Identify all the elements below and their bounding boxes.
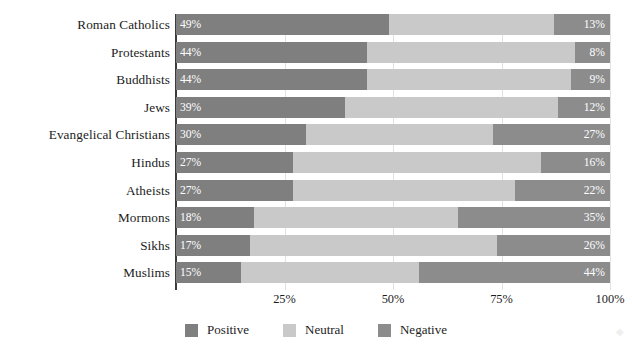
- bar-segment-neutral: [345, 97, 558, 118]
- segment-value-label: 26%: [584, 235, 605, 256]
- segment-value-label: 27%: [180, 180, 201, 201]
- bar-row: Mormons18%35%: [176, 207, 610, 228]
- legend-label: Positive: [207, 322, 249, 338]
- bar-segment-neutral: [254, 207, 458, 228]
- stacked-bar-chart: Roman Catholics49%13%Protestants44%8%Bud…: [0, 0, 632, 356]
- legend-swatch-icon: [185, 324, 198, 337]
- segment-value-label: 30%: [180, 124, 201, 145]
- legend-label: Neutral: [305, 322, 344, 338]
- bar-segment-positive: [176, 14, 389, 35]
- bar-row: Sikhs17%26%: [176, 235, 610, 256]
- bar-segment-positive: [176, 69, 367, 90]
- x-tick-label: 50%: [382, 292, 405, 307]
- bar-segment-neutral: [306, 124, 493, 145]
- bar-row: Buddhists44%9%: [176, 69, 610, 90]
- x-tick-label: 100%: [596, 292, 625, 307]
- category-label: Hindus: [0, 152, 170, 173]
- legend-item[interactable]: Neutral: [283, 322, 344, 338]
- segment-value-label: 39%: [180, 97, 201, 118]
- bar-segment-neutral: [367, 69, 571, 90]
- segment-value-label: 35%: [584, 207, 605, 228]
- category-label: Muslims: [0, 262, 170, 283]
- bar-row: Muslims15%44%: [176, 262, 610, 283]
- segment-value-label: 17%: [180, 235, 201, 256]
- category-label: Sikhs: [0, 235, 170, 256]
- category-label: Jews: [0, 97, 170, 118]
- bar-row: Jews39%12%: [176, 97, 610, 118]
- legend-item[interactable]: Negative: [378, 322, 447, 338]
- category-label: Atheists: [0, 180, 170, 201]
- bar-segment-neutral: [293, 152, 540, 173]
- category-label: Evangelical Christians: [0, 124, 170, 145]
- segment-value-label: 13%: [584, 14, 605, 35]
- bar-segment-neutral: [250, 235, 497, 256]
- category-label: Protestants: [0, 42, 170, 63]
- chart-legend: PositiveNeutralNegative: [0, 322, 632, 338]
- segment-value-label: 44%: [180, 69, 201, 90]
- bar-segment-neutral: [389, 14, 554, 35]
- bar-segment-negative: [419, 262, 610, 283]
- corner-artifact: ◆: [616, 327, 625, 336]
- segment-value-label: 8%: [590, 42, 605, 63]
- gridline-100: [610, 14, 611, 290]
- segment-value-label: 27%: [180, 152, 201, 173]
- category-label: Mormons: [0, 207, 170, 228]
- plot-area: Roman Catholics49%13%Protestants44%8%Bud…: [176, 14, 610, 290]
- segment-value-label: 27%: [584, 124, 605, 145]
- segment-value-label: 15%: [180, 262, 201, 283]
- bar-segment-positive: [176, 42, 367, 63]
- legend-swatch-icon: [283, 324, 296, 337]
- bar-row: Hindus27%16%: [176, 152, 610, 173]
- x-tick-label: 75%: [490, 292, 513, 307]
- segment-value-label: 16%: [584, 152, 605, 173]
- legend-swatch-icon: [378, 324, 391, 337]
- segment-value-label: 18%: [180, 207, 201, 228]
- segment-value-label: 12%: [584, 97, 605, 118]
- segment-value-label: 22%: [584, 180, 605, 201]
- category-label: Buddhists: [0, 69, 170, 90]
- segment-value-label: 44%: [584, 262, 605, 283]
- x-tick-label: 25%: [273, 292, 296, 307]
- bar-row: Evangelical Christians30%27%: [176, 124, 610, 145]
- segment-value-label: 44%: [180, 42, 201, 63]
- segment-value-label: 9%: [590, 69, 605, 90]
- bar-segment-neutral: [293, 180, 514, 201]
- bar-row: Roman Catholics49%13%: [176, 14, 610, 35]
- bar-segment-positive: [176, 97, 345, 118]
- bar-row: Atheists27%22%: [176, 180, 610, 201]
- bar-row: Protestants44%8%: [176, 42, 610, 63]
- bar-segment-neutral: [241, 262, 419, 283]
- legend-label: Negative: [400, 322, 447, 338]
- segment-value-label: 49%: [180, 14, 201, 35]
- bar-segment-neutral: [367, 42, 575, 63]
- legend-item[interactable]: Positive: [185, 322, 249, 338]
- category-label: Roman Catholics: [0, 14, 170, 35]
